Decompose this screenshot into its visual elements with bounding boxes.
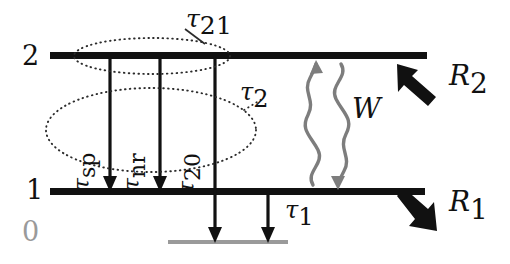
label-tau-21: τ21 — [186, 6, 232, 38]
R2-subscript: 2 — [470, 67, 488, 100]
energy-level-diagram: 2 1 0 τ21 τ2 τsp τnr τ20 τ1 W R2 R1 — [0, 0, 510, 264]
transition-arrow-tau-1 — [261, 192, 275, 243]
tau-nr-symbol: τ — [119, 178, 144, 190]
tau-sp-subscript: sp — [75, 153, 100, 178]
tau-21-symbol: τ — [186, 4, 200, 33]
diagram-canvas — [0, 0, 510, 264]
level-label-0: 0 — [22, 218, 39, 245]
label-tau-1: τ1 — [285, 198, 314, 229]
tau-2-subscript: 2 — [253, 85, 268, 113]
tau-20-symbol: τ — [174, 181, 199, 193]
label-tau-nr: τnr — [121, 153, 149, 190]
transition-arrow-tau-sp — [103, 57, 117, 192]
level-line-0 — [168, 240, 288, 244]
pump-arrow-R2 — [397, 64, 436, 106]
tau-2-symbol: τ — [240, 78, 253, 106]
R2-symbol: R — [449, 59, 470, 92]
tau-sp-symbol: τ — [69, 178, 94, 190]
label-tau-2: τ2 — [240, 80, 269, 111]
tau-nr-subscript: nr — [125, 153, 150, 178]
level-line-1 — [50, 188, 425, 195]
label-tau-20: τ20 — [176, 153, 204, 193]
level-label-2: 2 — [22, 42, 39, 69]
R1-subscript: 1 — [470, 193, 488, 226]
label-R1: R1 — [449, 188, 488, 224]
level-line-2 — [50, 52, 427, 59]
level-label-1: 1 — [26, 176, 43, 203]
transition-arrow-tau-20 — [208, 57, 222, 243]
wavy-arrow-up — [305, 60, 323, 185]
tau-1-subscript: 1 — [298, 203, 313, 231]
wavy-arrow-down — [331, 64, 349, 190]
label-W: W — [352, 95, 381, 123]
R1-symbol: R — [449, 185, 470, 218]
label-R2: R2 — [449, 62, 488, 98]
tau-1-symbol: τ — [285, 196, 298, 224]
tau-21-subscript: 21 — [200, 11, 232, 40]
tau-20-subscript: 20 — [180, 153, 205, 181]
label-tau-sp: τsp — [71, 153, 99, 191]
